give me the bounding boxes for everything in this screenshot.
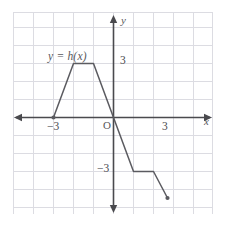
curve-label: y = h(x) xyxy=(48,50,87,62)
graph-figure: y = h(x) x y O −3 3 3 −3 xyxy=(0,0,225,234)
origin-label: O xyxy=(103,119,111,131)
arrow-down-icon xyxy=(110,205,117,213)
arrow-left-icon xyxy=(14,114,22,121)
endpoint-dot-left xyxy=(51,115,55,119)
x-tick-label-neg-3: −3 xyxy=(47,120,59,132)
x-tick-label-3: 3 xyxy=(162,120,168,132)
y-tick-label-neg-3: −3 xyxy=(97,162,109,174)
arrow-up-icon xyxy=(110,15,117,23)
y-tick-label-3: 3 xyxy=(120,54,126,66)
endpoint-dot-right xyxy=(165,196,169,200)
y-axis-label: y xyxy=(121,14,126,26)
coordinate-plane xyxy=(13,12,213,214)
graph-svg xyxy=(13,12,213,214)
x-axis-label: x xyxy=(204,115,209,127)
